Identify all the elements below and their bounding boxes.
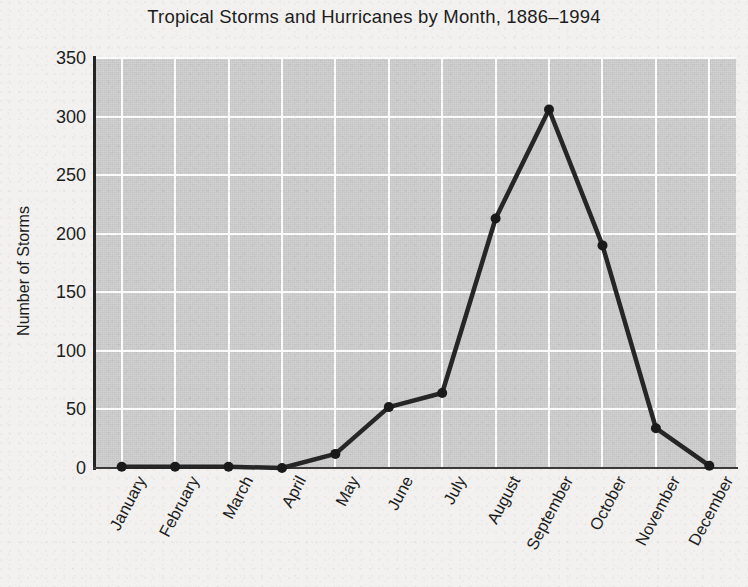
y-tick-label: 150 <box>18 283 86 301</box>
y-tick-label: 100 <box>18 342 86 360</box>
x-tick-label-text: June <box>384 473 415 512</box>
x-tick-label-text: November <box>632 473 682 548</box>
series-markers <box>117 105 715 474</box>
x-tick-label: July <box>434 470 462 504</box>
x-tick-label: February <box>150 470 196 536</box>
y-tick-label: 350 <box>18 49 86 67</box>
x-tick-label: March <box>213 470 249 518</box>
chart-title: Tropical Storms and Hurricanes by Month,… <box>0 6 748 28</box>
y-tick-label: 0 <box>18 459 86 477</box>
x-tick-label: January <box>100 470 142 530</box>
x-tick-label: August <box>478 470 517 523</box>
data-point-marker <box>437 388 447 398</box>
x-tick-label: April <box>272 470 302 507</box>
x-tick-label: November <box>626 470 676 545</box>
data-point-marker <box>651 423 661 433</box>
series-polyline <box>122 110 710 469</box>
x-tick-label-text: January <box>106 473 148 533</box>
x-tick-label-text: July <box>441 473 469 507</box>
y-tick-label: 50 <box>18 400 86 418</box>
y-tick-label: 200 <box>18 225 86 243</box>
data-point-marker <box>330 449 340 459</box>
data-point-marker <box>544 105 554 115</box>
x-tick-label: October <box>581 470 623 530</box>
data-point-marker <box>384 402 394 412</box>
x-tick-label-text: April <box>279 473 309 510</box>
x-tick-label-text: October <box>587 473 629 533</box>
x-tick-label-text: December <box>686 473 736 548</box>
x-tick-label: December <box>680 470 730 545</box>
x-axis-tick-labels: JanuaryFebruaryMarchAprilMayJuneJulyAugu… <box>95 470 736 587</box>
x-tick-label-text: May <box>333 473 362 508</box>
x-tick-label-text: March <box>219 473 255 521</box>
data-point-marker <box>491 214 501 224</box>
x-tick-label: June <box>378 470 409 509</box>
chart-figure: Tropical Storms and Hurricanes by Month,… <box>0 0 748 587</box>
data-series-line <box>95 58 736 468</box>
x-tick-label-text: February <box>156 473 202 539</box>
y-tick-label: 250 <box>18 166 86 184</box>
y-tick-label: 300 <box>18 108 86 126</box>
data-point-marker <box>598 240 608 250</box>
x-tick-label: May <box>327 470 356 505</box>
y-axis-tick-labels: 350300250200150100500 <box>18 58 86 468</box>
x-tick-label-text: August <box>484 473 523 526</box>
x-tick-label-text: September <box>523 473 575 552</box>
x-tick-label: September <box>517 470 569 549</box>
